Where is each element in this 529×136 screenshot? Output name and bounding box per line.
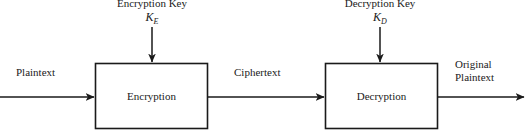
decryption-key-label: Decryption Key xyxy=(304,0,456,9)
node-encryption-label: Encryption xyxy=(95,90,208,102)
encryption-key-label: Encryption Key xyxy=(76,0,228,9)
encryption-decryption-diagram: Encryption Key KE Decryption Key KD Plai… xyxy=(0,0,529,136)
plaintext-input-label: Plaintext xyxy=(16,66,55,79)
key-symbol-subscript: E xyxy=(154,17,159,26)
key-symbol-subscript: D xyxy=(381,17,387,26)
ciphertext-label: Ciphertext xyxy=(234,66,280,79)
key-symbol-base: K xyxy=(373,10,381,24)
original-plaintext-line2: Plaintext xyxy=(455,71,494,83)
original-plaintext-label: OriginalPlaintext xyxy=(455,58,494,84)
key-symbol-base: K xyxy=(146,10,154,24)
original-plaintext-line1: Original xyxy=(455,58,492,70)
node-decryption-label: Decryption xyxy=(325,90,438,102)
decryption-key-symbol: KD xyxy=(340,11,420,25)
encryption-key-symbol: KE xyxy=(112,11,192,25)
